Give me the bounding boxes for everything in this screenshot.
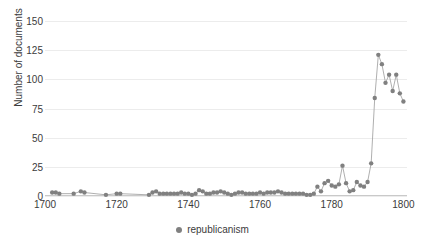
y-axis-tick-label: 50 bbox=[9, 132, 43, 143]
data-point bbox=[376, 53, 380, 57]
data-point bbox=[383, 81, 387, 85]
data-point bbox=[337, 182, 341, 186]
x-axis-tick-label: 1740 bbox=[177, 199, 199, 210]
data-point bbox=[380, 62, 384, 66]
gridline bbox=[45, 196, 407, 197]
legend: republicanism bbox=[0, 224, 425, 235]
y-axis-tick-label: 125 bbox=[9, 45, 43, 56]
data-point bbox=[394, 72, 398, 76]
x-axis-tick-label: 1700 bbox=[34, 199, 56, 210]
legend-label: republicanism bbox=[187, 224, 249, 235]
y-axis-tick-label: 150 bbox=[9, 16, 43, 27]
data-point bbox=[362, 184, 366, 188]
data-point bbox=[319, 189, 323, 193]
data-point bbox=[387, 72, 391, 76]
plot-area: 0255075100125150 17001720174017601780180… bbox=[45, 21, 407, 196]
x-axis-tick-label: 1800 bbox=[392, 199, 414, 210]
legend-marker-icon bbox=[176, 227, 182, 233]
data-point bbox=[82, 190, 86, 194]
data-point bbox=[104, 193, 108, 197]
data-point bbox=[340, 163, 344, 167]
data-point bbox=[369, 161, 373, 165]
series-line bbox=[52, 55, 403, 195]
data-point bbox=[118, 191, 122, 195]
data-point bbox=[322, 181, 326, 185]
x-axis-tick-label: 1760 bbox=[249, 199, 271, 210]
data-point bbox=[344, 181, 348, 185]
x-axis-tick-label: 1720 bbox=[106, 199, 128, 210]
data-point bbox=[312, 191, 316, 195]
data-point bbox=[373, 96, 377, 100]
y-axis-tick-label: 100 bbox=[9, 74, 43, 85]
data-point bbox=[398, 91, 402, 95]
chart-title bbox=[0, 0, 425, 2]
series-republicanism bbox=[45, 21, 407, 196]
data-point bbox=[390, 89, 394, 93]
data-point bbox=[201, 189, 205, 193]
data-point bbox=[401, 99, 405, 103]
data-point bbox=[71, 191, 75, 195]
data-point bbox=[355, 180, 359, 184]
data-point bbox=[315, 184, 319, 188]
chart-root: Number of documents 0255075100125150 170… bbox=[0, 0, 425, 251]
data-point bbox=[57, 191, 61, 195]
data-point bbox=[326, 179, 330, 183]
y-axis-tick-label: 25 bbox=[9, 161, 43, 172]
data-point bbox=[193, 191, 197, 195]
data-point bbox=[351, 188, 355, 192]
x-axis-tick-label: 1780 bbox=[321, 199, 343, 210]
y-axis-tick-label: 75 bbox=[9, 103, 43, 114]
data-point bbox=[365, 180, 369, 184]
